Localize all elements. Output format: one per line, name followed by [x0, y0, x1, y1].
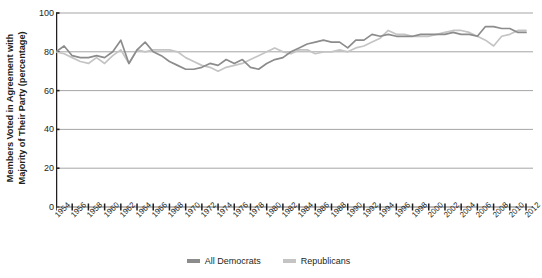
y-axis-tick-labels: 020406080100: [26, 0, 54, 220]
legend-item-all-democrats[interactable]: All Democrats: [187, 256, 261, 266]
y-tick-label-80: 80: [28, 47, 54, 57]
chart-canvas: [56, 0, 533, 215]
x-axis-tick-labels: 1954195619581960196219641966196819701972…: [56, 209, 533, 255]
y-tick-label-60: 60: [28, 86, 54, 96]
y-axis-title-line-2: Majority of Their Party (percentage): [16, 31, 26, 184]
legend-label: All Democrats: [205, 256, 261, 266]
legend-swatch-icon: [283, 259, 296, 263]
y-tick-label-0: 0: [28, 202, 54, 212]
y-axis-title-line-1: Members Voted in Agreement with: [5, 33, 15, 181]
series-line-republicans: [56, 30, 526, 71]
series-line-all-democrats: [56, 27, 526, 70]
legend-swatch-icon: [187, 259, 200, 263]
legend-label: Republicans: [301, 256, 351, 266]
y-tick-label-100: 100: [28, 8, 54, 18]
legend-item-republicans[interactable]: Republicans: [283, 256, 351, 266]
plot-area: [56, 0, 533, 215]
y-tick-label-20: 20: [28, 163, 54, 173]
y-tick-label-40: 40: [28, 124, 54, 134]
chart-legend: All DemocratsRepublicans: [0, 256, 537, 266]
